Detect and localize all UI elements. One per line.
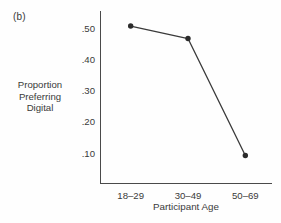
data-series-layer <box>100 11 272 184</box>
y-axis-title-line-2: Preferring <box>4 91 76 103</box>
y-tick-label: .40 <box>82 53 95 64</box>
y-tick-label: .10 <box>82 147 95 158</box>
x-tick-label: 18–29 <box>117 190 144 201</box>
y-axis-title-line-3: Digital <box>4 102 76 114</box>
series-markers <box>128 23 248 158</box>
data-point <box>243 153 248 158</box>
y-tick-label: .30 <box>82 85 95 96</box>
data-point <box>185 36 190 41</box>
x-tick-label: 30–49 <box>175 190 202 201</box>
x-tick-label: 50–69 <box>232 190 259 201</box>
y-axis-title: Proportion Preferring Digital <box>4 79 76 114</box>
data-point <box>128 23 133 28</box>
y-tick-label: .20 <box>82 116 95 127</box>
figure-panel-b: (b) Proportion Preferring Digital .50.40… <box>0 0 281 223</box>
x-axis-title: Participant Age <box>100 201 272 212</box>
plot-area: .50.40.30.20.10 18–2930–4950–69 <box>100 11 272 184</box>
y-tick-label: .50 <box>82 22 95 33</box>
series-line <box>131 26 246 156</box>
panel-label: (b) <box>13 11 26 22</box>
y-axis-title-line-1: Proportion <box>4 79 76 91</box>
